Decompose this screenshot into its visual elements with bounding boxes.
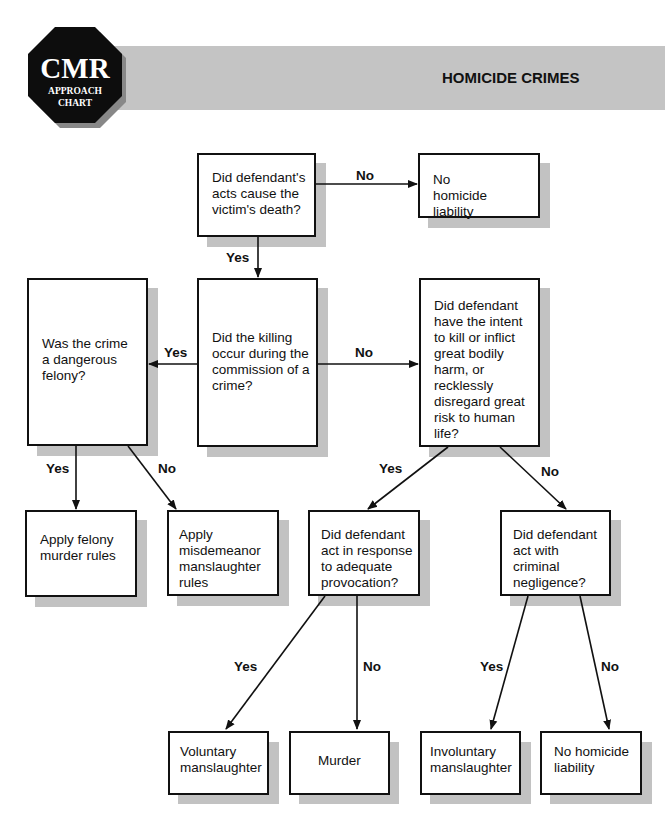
edge-label-yes: Yes: [480, 659, 503, 674]
edge-label-yes: Yes: [234, 659, 257, 674]
node-text: Apply misdemeanor manslaughter rules: [179, 527, 277, 591]
node-intent: Did defendant have the intent to kill or…: [419, 278, 540, 447]
node-murder: Murder: [289, 731, 390, 795]
node-text: Did the killing occur during the commiss…: [212, 330, 310, 394]
node-no-liability-top: No homicide liability: [418, 153, 540, 218]
edge-label-yes: Yes: [379, 461, 402, 476]
node-text: Involuntary manslaughter: [430, 744, 500, 776]
node-provocation: Did defendant act in response to adequat…: [308, 510, 420, 596]
node-causation: Did defendant's acts cause the victim's …: [197, 153, 316, 237]
edge-label-no: No: [601, 659, 619, 674]
node-voluntary: Voluntary manslaughter: [168, 731, 269, 795]
edge-label-no: No: [356, 168, 374, 183]
node-text: No homicide liability: [554, 744, 640, 776]
node-no-liability-bottom: No homicide liability: [540, 731, 642, 795]
edge-label-yes: Yes: [164, 345, 187, 360]
edge-label-no: No: [541, 464, 559, 479]
node-dangerous-felony: Was the crime a dangerous felony?: [27, 278, 148, 446]
node-felony-murder: Apply felony murder rules: [25, 510, 137, 597]
node-text: Murder: [291, 753, 388, 769]
edge-label-no: No: [363, 659, 381, 674]
node-during-crime: Did the killing occur during the commiss…: [197, 278, 318, 447]
edge-label-no: No: [355, 345, 373, 360]
node-text: Apply felony murder rules: [40, 532, 127, 564]
edge-label-yes: Yes: [226, 250, 249, 265]
edge-label-yes: Yes: [46, 461, 69, 476]
node-misdemeanor-manslaughter: Apply misdemeanor manslaughter rules: [167, 510, 279, 596]
node-negligence: Did defendant act with criminal negligen…: [500, 510, 611, 596]
node-text: Voluntary manslaughter: [180, 744, 250, 776]
node-text: No homicide liability: [433, 172, 538, 220]
edge-label-no: No: [158, 461, 176, 476]
node-involuntary: Involuntary manslaughter: [420, 731, 521, 795]
node-text: Did defendant act with criminal negligen…: [513, 527, 603, 591]
node-text: Was the crime a dangerous felony?: [42, 336, 136, 384]
node-text: Did defendant have the intent to kill or…: [434, 298, 530, 442]
node-text: Did defendant act in response to adequat…: [321, 527, 415, 591]
node-text: Did defendant's acts cause the victim's …: [212, 170, 314, 218]
